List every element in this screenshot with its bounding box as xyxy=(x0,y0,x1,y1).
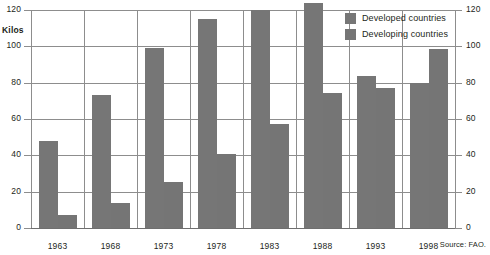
y-tick-left-60 xyxy=(24,119,31,120)
y-axis-label-right-100: 100 xyxy=(466,41,480,50)
y-axis-label-right-20: 20 xyxy=(466,187,476,196)
y-axis-label-right-60: 60 xyxy=(466,114,476,123)
category-separator-1968 xyxy=(137,10,138,228)
y-axis-label-left-100: 100 xyxy=(7,41,21,50)
x-axis-label-1978: 1978 xyxy=(190,242,243,251)
legend-item-developing: Developing countries xyxy=(345,27,448,41)
y-tick-right-40 xyxy=(455,155,462,156)
y-tick-left-20 xyxy=(24,192,31,193)
y-axis-unit-label: Kilos xyxy=(2,26,24,35)
bar-developing-1973 xyxy=(164,182,183,228)
y-tick-left-80 xyxy=(24,83,31,84)
bar-developing-1988 xyxy=(323,93,342,228)
y-tick-right-80 xyxy=(455,83,462,84)
y-tick-left-0 xyxy=(24,228,31,229)
bar-developing-1998 xyxy=(429,49,448,228)
bar-developing-1983 xyxy=(270,124,289,228)
chart-legend: Developed countries Developing countries xyxy=(345,11,448,43)
legend-swatch-developed xyxy=(345,13,356,24)
bar-developed-1998 xyxy=(410,83,429,228)
y-axis-label-left-0: 0 xyxy=(16,223,21,232)
y-tick-right-20 xyxy=(455,192,462,193)
legend-label-developing: Developing countries xyxy=(362,29,448,39)
y-axis-label-left-120: 120 xyxy=(7,5,21,14)
y-tick-right-0 xyxy=(455,228,462,229)
y-tick-left-120 xyxy=(24,10,31,11)
y-axis-label-left-60: 60 xyxy=(11,114,21,123)
bar-developing-1963 xyxy=(58,215,77,228)
bar-developed-1978 xyxy=(198,19,217,228)
bar-developing-1993 xyxy=(376,88,395,228)
x-axis-label-1963: 1963 xyxy=(31,242,84,251)
y-axis-label-right-40: 40 xyxy=(466,150,476,159)
category-separator-1978 xyxy=(243,10,244,228)
legend-label-developed: Developed countries xyxy=(362,13,446,23)
y-axis-label-right-80: 80 xyxy=(466,78,476,87)
x-axis-label-1993: 1993 xyxy=(349,242,402,251)
category-separator-start xyxy=(31,10,32,228)
x-axis-label-1968: 1968 xyxy=(84,242,137,251)
x-axis-label-1983: 1983 xyxy=(243,242,296,251)
bar-developed-1963 xyxy=(39,141,58,228)
legend-swatch-developing xyxy=(345,29,356,40)
y-axis-label-right-120: 120 xyxy=(466,5,480,14)
bar-developed-1973 xyxy=(145,48,164,228)
y-axis-label-left-40: 40 xyxy=(11,150,21,159)
bar-developing-1968 xyxy=(111,203,130,228)
y-tick-right-60 xyxy=(455,119,462,120)
legend-item-developed: Developed countries xyxy=(345,11,448,25)
source-note: Source: FAO. xyxy=(440,241,486,249)
category-separator-1963 xyxy=(84,10,85,228)
bar-developed-1993 xyxy=(357,76,376,228)
gridline-0 xyxy=(31,228,455,229)
bar-developed-1968 xyxy=(92,95,111,228)
category-separator-1973 xyxy=(190,10,191,228)
bar-chart: Kilos 0020204040606080801001001201201963… xyxy=(0,0,490,255)
x-axis-label-1973: 1973 xyxy=(137,242,190,251)
bar-developed-1988 xyxy=(304,3,323,228)
y-tick-left-40 xyxy=(24,155,31,156)
y-tick-right-100 xyxy=(455,46,462,47)
bar-developed-1983 xyxy=(251,10,270,228)
y-axis-label-left-80: 80 xyxy=(11,78,21,87)
category-separator-1998 xyxy=(455,10,456,228)
bar-developing-1978 xyxy=(217,154,236,228)
category-separator-1983 xyxy=(296,10,297,228)
y-axis-label-right-0: 0 xyxy=(466,223,471,232)
y-tick-left-100 xyxy=(24,46,31,47)
y-axis-label-left-20: 20 xyxy=(11,187,21,196)
y-tick-right-120 xyxy=(455,10,462,11)
x-axis-label-1988: 1988 xyxy=(296,242,349,251)
